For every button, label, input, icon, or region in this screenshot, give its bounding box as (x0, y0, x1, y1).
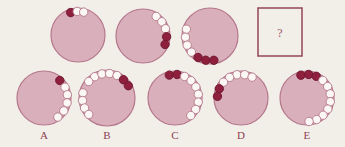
option-d[interactable] (213, 70, 268, 125)
bead-white (98, 70, 106, 78)
bead-white (194, 90, 202, 98)
question-mark: ? (277, 26, 282, 40)
option-label-b: B (103, 129, 111, 141)
option-c[interactable] (148, 70, 203, 125)
bead-white (326, 90, 334, 98)
bead-dark (297, 71, 305, 79)
bead-white (54, 113, 62, 121)
option-label-e: E (303, 129, 310, 141)
option-b[interactable] (78, 69, 135, 126)
option-label-d: D (237, 129, 245, 141)
bead-dark (215, 85, 223, 93)
bead-white (187, 111, 195, 119)
bead-white (181, 33, 189, 41)
bead-dark (124, 82, 132, 90)
sequence-circle-3 (181, 8, 238, 65)
bead-circle-puzzle: ? ABCDE (0, 0, 345, 147)
bead-white (85, 110, 93, 118)
bead-white (80, 8, 88, 16)
bead-white (182, 25, 190, 33)
puzzle-canvas: ? ABCDE (0, 0, 345, 147)
option-label-c: C (171, 129, 179, 141)
bead-dark (194, 53, 202, 61)
bead-white (79, 89, 87, 97)
bead-white (63, 91, 71, 99)
disc-body (116, 9, 170, 63)
sequence-circle-2 (116, 9, 171, 63)
options-row: ABCDE (17, 69, 335, 141)
bead-dark (202, 56, 210, 64)
answer-box-layer[interactable]: ? (258, 8, 302, 56)
bead-dark (210, 56, 218, 64)
sequence-circle-1 (51, 7, 105, 62)
bead-white (312, 115, 320, 123)
disc-body (51, 8, 105, 62)
bead-white (63, 99, 71, 107)
bead-white (305, 117, 313, 125)
bead-dark (161, 40, 169, 48)
bead-dark (304, 70, 312, 78)
bead-dark (213, 92, 221, 100)
puzzle-stage: ? ABCDE (0, 0, 345, 147)
bead-white (248, 73, 256, 81)
option-e[interactable] (280, 70, 335, 125)
option-label-a: A (40, 129, 48, 141)
bead-white (161, 25, 169, 33)
bead-dark (173, 70, 181, 78)
sequence-row (51, 7, 238, 64)
bead-dark (165, 71, 173, 79)
bead-white (85, 77, 93, 85)
bead-dark (162, 33, 170, 41)
option-a[interactable] (17, 71, 72, 125)
